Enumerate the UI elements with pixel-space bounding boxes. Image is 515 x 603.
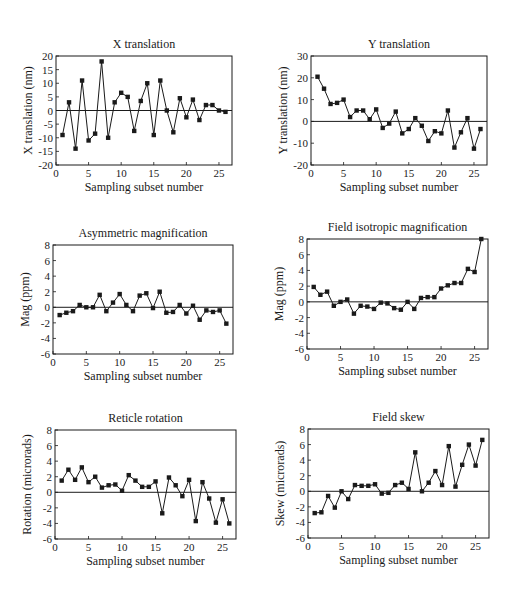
- data-point-square-marker: [446, 108, 450, 112]
- data-point-square-marker: [157, 290, 161, 294]
- y-tick-label: 2: [299, 280, 305, 292]
- y-axis-label: Mag (ppm): [272, 267, 286, 321]
- data-point-square-marker: [111, 300, 115, 304]
- data-point-square-marker: [318, 293, 322, 297]
- data-point-square-marker: [73, 146, 77, 150]
- y-tick-label: 2: [300, 470, 306, 482]
- data-point-square-marker: [126, 95, 130, 99]
- data-point-square-marker: [227, 521, 231, 525]
- x-tick-label: 25: [217, 541, 229, 553]
- x-tick-label: 5: [86, 167, 92, 179]
- chart-title: Field isotropic magnification: [328, 220, 467, 234]
- data-point-square-marker: [465, 116, 469, 120]
- data-point-square-marker: [224, 321, 228, 325]
- data-point-square-marker: [361, 108, 365, 112]
- data-point-square-marker: [152, 133, 156, 137]
- data-point-square-marker: [452, 281, 456, 285]
- figure-canvas: X translation-20-15-10-50510152005101520…: [0, 0, 515, 603]
- data-point-square-marker: [113, 482, 117, 486]
- data-point-square-marker: [191, 97, 195, 101]
- data-point-square-marker: [372, 307, 376, 311]
- y-tick-label: 5: [48, 91, 54, 103]
- y-tick-label: 4: [47, 455, 53, 467]
- data-point-square-marker: [57, 313, 61, 317]
- data-point-square-marker: [71, 309, 75, 313]
- data-point-square-marker: [472, 270, 476, 274]
- data-point-square-marker: [460, 463, 464, 467]
- data-point-square-marker: [446, 283, 450, 287]
- data-point-square-marker: [426, 139, 430, 143]
- data-point-square-marker: [119, 91, 123, 95]
- data-point-square-marker: [447, 444, 451, 448]
- data-point-square-marker: [426, 481, 430, 485]
- y-tick-label: 15: [42, 64, 54, 76]
- data-point-square-marker: [419, 296, 423, 300]
- x-tick-label: 25: [214, 356, 226, 368]
- y-tick-label: -5: [44, 118, 54, 130]
- data-point-square-marker: [60, 478, 64, 482]
- data-point-square-marker: [217, 308, 221, 312]
- data-point-square-marker: [214, 520, 218, 524]
- x-tick-label: 0: [308, 167, 314, 179]
- data-point-square-marker: [197, 318, 201, 322]
- x-tick-label: 10: [370, 540, 382, 552]
- data-point-square-marker: [117, 292, 121, 296]
- data-point-square-marker: [379, 300, 383, 304]
- data-point-square-marker: [204, 308, 208, 312]
- data-point-square-marker: [171, 130, 175, 134]
- y-tick-label: 8: [299, 233, 305, 245]
- y-tick-label: -2: [43, 502, 52, 514]
- x-tick-label: 0: [53, 167, 59, 179]
- data-point-square-marker: [335, 101, 339, 105]
- data-point-square-marker: [220, 497, 224, 501]
- data-point-square-marker: [333, 505, 337, 509]
- data-point-square-marker: [322, 87, 326, 91]
- data-point-square-marker: [386, 491, 390, 495]
- data-point-square-marker: [217, 108, 221, 112]
- x-tick-label: 20: [181, 356, 193, 368]
- data-point-square-marker: [60, 133, 64, 137]
- data-point-square-marker: [341, 97, 345, 101]
- data-point-square-marker: [165, 108, 169, 112]
- data-point-square-marker: [374, 107, 378, 111]
- y-tick-label: 6: [300, 439, 306, 451]
- data-point-square-marker: [133, 478, 137, 482]
- x-tick-label: 0: [304, 351, 310, 363]
- data-point-square-marker: [139, 99, 143, 103]
- data-point-square-marker: [80, 465, 84, 469]
- y-tick-label: -4: [296, 516, 306, 528]
- data-point-square-marker: [480, 438, 484, 442]
- data-point-square-marker: [167, 475, 171, 479]
- data-point-square-marker: [177, 303, 181, 307]
- y-tick-label: -2: [41, 317, 50, 329]
- data-point-square-marker: [338, 300, 342, 304]
- data-point-square-marker: [413, 450, 417, 454]
- y-tick-label: -2: [295, 312, 304, 324]
- data-point-square-marker: [432, 295, 436, 299]
- chart-title: X translation: [113, 37, 175, 51]
- data-point-square-marker: [405, 300, 409, 304]
- data-point-square-marker: [131, 309, 135, 313]
- data-point-square-marker: [452, 145, 456, 149]
- chart-field-isotropic-magnification: Field isotropic magnification-6-4-202468…: [272, 220, 488, 378]
- data-point-square-marker: [433, 469, 437, 473]
- data-point-square-marker: [158, 78, 162, 82]
- y-axis-label: Y translation (nm): [276, 66, 290, 154]
- data-point-square-marker: [352, 311, 356, 315]
- y-tick-label: 0: [303, 115, 309, 127]
- y-tick-label: 0: [47, 486, 53, 498]
- chart-field-skew: Field skew-6-4-2024680510152025Sampling …: [273, 410, 489, 567]
- y-tick-label: 2: [45, 286, 51, 298]
- x-tick-label: 5: [339, 540, 345, 552]
- x-tick-label: 15: [150, 541, 162, 553]
- data-point-square-marker: [354, 108, 358, 112]
- x-axis-label: Sampling subset number: [84, 369, 203, 383]
- plot-frame: [55, 430, 236, 539]
- data-point-square-marker: [67, 100, 71, 104]
- x-axis-label: Sampling subset number: [340, 180, 459, 194]
- data-point-square-marker: [328, 102, 332, 106]
- data-point-square-marker: [86, 138, 90, 142]
- data-point-square-marker: [467, 442, 471, 446]
- data-point-square-marker: [385, 301, 389, 305]
- data-point-square-marker: [137, 293, 141, 297]
